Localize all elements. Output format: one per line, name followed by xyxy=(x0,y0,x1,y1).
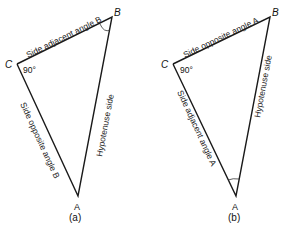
vertex-a-label: A xyxy=(74,202,80,212)
angle-b-arc xyxy=(100,24,110,31)
vertex-c-label: C xyxy=(161,59,169,70)
trig-triangles-diagram: C B A 90° Side adjacent angle B Side opp… xyxy=(0,0,287,233)
triangle-b: C B A 90° Side opposite angle A Side adj… xyxy=(161,7,279,223)
vertex-b-label: B xyxy=(272,7,279,18)
right-angle-label: 90° xyxy=(23,65,36,75)
triangle-a: C B A 90° Side adjacent angle B Side opp… xyxy=(5,7,121,223)
side-ba-label: Hypotenuse side xyxy=(94,93,116,157)
vertex-b-label: B xyxy=(114,7,121,18)
side-cb-label: Side adjacent angle B xyxy=(24,14,103,60)
vertex-a-label: A xyxy=(232,202,238,212)
caption-b: (b) xyxy=(228,212,240,223)
side-cb-label: Side opposite angle A xyxy=(182,15,261,60)
angle-a-arc xyxy=(228,179,239,180)
vertex-c-label: C xyxy=(5,59,13,70)
right-angle-label: 90° xyxy=(180,65,193,75)
side-ba-label: Hypotenuse side xyxy=(252,54,274,118)
side-ca-label: Side adjacent angle A xyxy=(175,89,219,168)
caption-a: (a) xyxy=(69,212,81,223)
triangle-a-outline xyxy=(17,17,112,196)
